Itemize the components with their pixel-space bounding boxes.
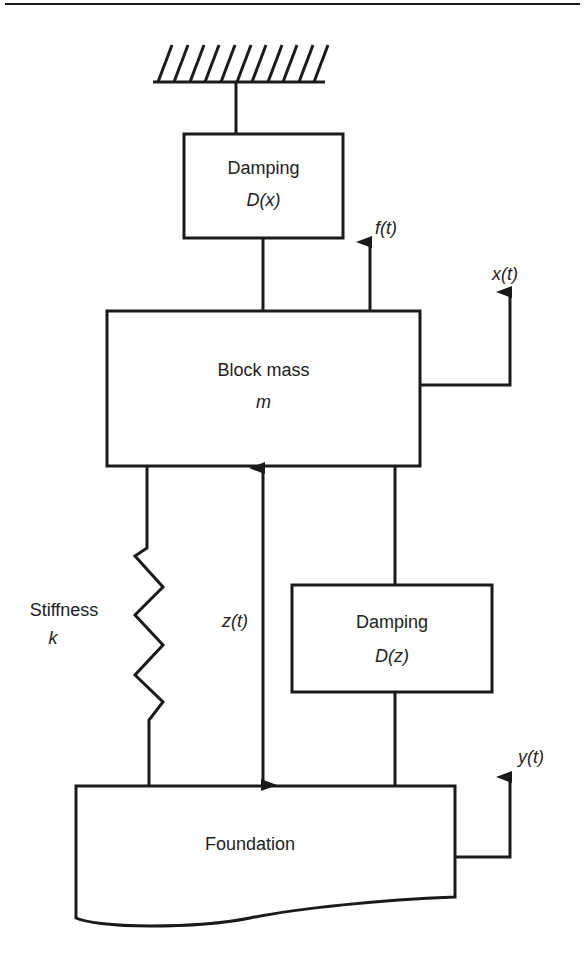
bottom-damper-symbol: D(z)	[292, 646, 492, 666]
top-damper-symbol: D(x)	[184, 190, 343, 210]
diagram-canvas	[0, 0, 585, 960]
top-damper-box	[184, 134, 343, 238]
spring-icon	[135, 466, 163, 785]
mass-title: Block mass	[107, 360, 420, 380]
foundation-shape	[76, 786, 455, 926]
force-label: f(t)	[375, 218, 397, 238]
spring-title: Stiffness	[18, 600, 110, 620]
mass-box	[107, 311, 420, 466]
top-damper-title: Damping	[184, 158, 343, 178]
foundation-title: Foundation	[205, 834, 295, 854]
relative-displacement-label: z(t)	[222, 611, 248, 631]
mass-displacement-label: x(t)	[492, 264, 518, 284]
foundation-displacement-arrow-icon	[455, 777, 510, 857]
bottom-damper-box	[292, 585, 492, 692]
fixed-support-hatch-icon	[153, 45, 328, 82]
mass-displacement-arrow-icon	[420, 292, 510, 385]
spring-symbol: k	[18, 628, 110, 648]
bottom-damper-title: Damping	[292, 612, 492, 632]
mass-symbol: m	[107, 392, 420, 412]
foundation-displacement-label: y(t)	[518, 747, 544, 767]
